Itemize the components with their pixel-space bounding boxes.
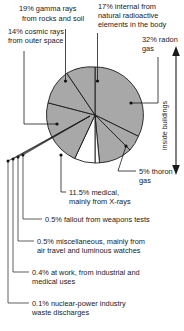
leader-line-fallout [23,155,42,219]
leader-dot-cosmic [55,122,58,125]
callout-thoron-line2: gas [139,176,151,185]
callout-radon-line2: gas [142,44,154,53]
callout-thoron-line1: 5% thoron [139,167,173,176]
leader-dot-nuclear [7,160,10,163]
leader-dot-thoron [124,144,127,147]
arrow-head-up-icon [172,46,180,56]
inside-buildings-label: inside buildings [160,100,169,150]
callout-radon-line1: 32% radon [142,35,178,44]
callout-internal-line3: elements in the body [98,20,167,29]
callout-nuclear-line1: 0.1% nuclear-power industry [32,299,126,308]
callout-gamma-line2: from rocks and soil [22,14,84,23]
radiation-sources-pie-figure: inside buildings 19% gamma rays from roc… [0,0,184,331]
callout-medical-line1: 11.5% medical, [69,188,119,197]
callout-cosmic-line1: 14% cosmic rays [8,27,64,36]
leader-dot-medical [59,153,62,156]
leader-dot-radon [129,101,132,104]
callout-nuclear-line2: waste discharges [31,308,89,317]
leader-dot-internal [96,79,99,82]
callout-gamma-line1: 19% gamma rays [19,4,77,13]
figure-canvas: inside buildings 19% gamma rays from roc… [0,0,184,331]
callout-internal-line2: natural radioactive [98,11,158,20]
callout-misc-line2: air travel and luminous watches [37,246,141,255]
leader-line-nuclear [8,161,29,303]
callout-internal-line1: 17% internal from [98,2,156,11]
leader-line-work [13,159,29,272]
callout-fallout-line1: 0.5% fallout from weapons tests [45,215,150,224]
leader-line-medical [61,155,66,192]
arrow-head-down-icon [172,165,180,175]
inside-buildings-annotation: inside buildings [160,46,180,175]
callout-misc-line1: 0.5% miscellaneous, mainly from [37,237,145,246]
callout-work-line1: 0.4% at work, from industrial and [32,268,140,277]
callout-medical-line2: mainly from X-rays [69,197,131,206]
callout-work-line2: medical uses [32,277,75,286]
pie-slices [46,67,143,163]
callout-cosmic-line2: from outer space [8,36,63,45]
leader-line-misc [18,157,34,241]
leader-dot-gamma [64,79,67,82]
